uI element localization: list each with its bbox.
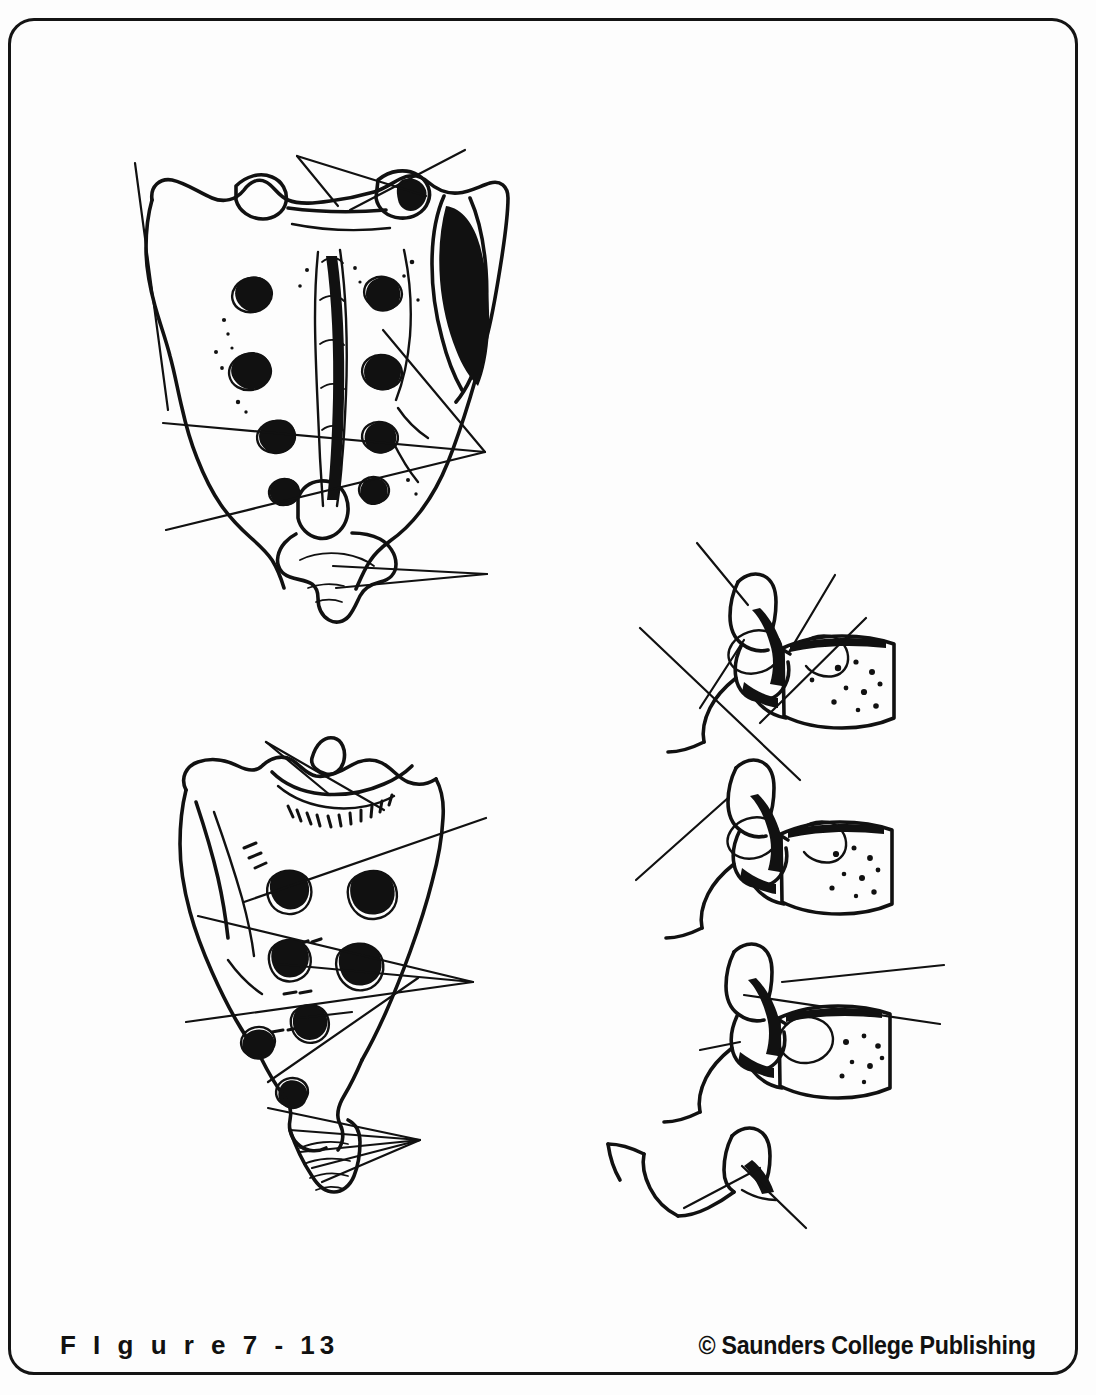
leader-line — [198, 916, 473, 982]
anatomical-figure-canvas: .bone { fill:none; stroke:#111111; strok… — [0, 0, 1096, 1395]
panel-lumbar-vertebrae-lateral-view — [608, 543, 944, 1228]
leader-line — [266, 742, 384, 810]
leader-line — [700, 1042, 740, 1050]
leader-line — [697, 543, 748, 605]
leader-line — [782, 965, 944, 982]
leader-line — [636, 798, 728, 880]
leader-line — [186, 982, 473, 1022]
panel-sacrum-posterior-view — [135, 150, 508, 622]
figure-number-label: F I g u r e 7 - 13 — [60, 1330, 339, 1361]
copyright-notice-label: © Saunders College Publishing — [699, 1331, 1036, 1360]
leader-line — [700, 640, 744, 708]
leader-line — [333, 566, 487, 574]
figure-plate-page: .bone { fill:none; stroke:#111111; strok… — [0, 0, 1096, 1395]
leader-line — [742, 1166, 806, 1228]
panel-sacrum-anterolateral-view — [180, 738, 486, 1192]
leader-line — [163, 423, 485, 452]
figure-caption-row: F I g u r e 7 - 13 © Saunders College Pu… — [8, 1323, 1088, 1367]
